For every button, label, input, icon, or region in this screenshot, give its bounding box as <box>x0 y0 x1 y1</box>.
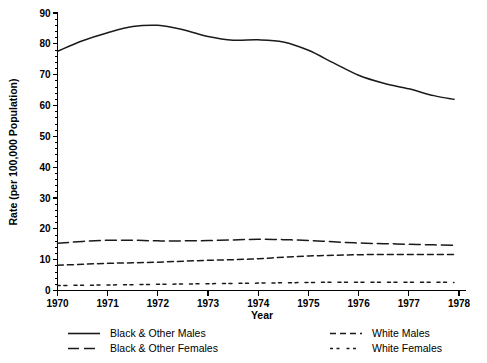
y-tick-label: 10 <box>39 254 51 265</box>
legend-label-2: White Males <box>372 327 430 339</box>
x-tick-label: 1975 <box>297 298 320 309</box>
x-axis-ticks <box>58 291 460 296</box>
x-tick-label: 1978 <box>448 298 471 309</box>
series-line-1 <box>58 239 454 245</box>
series-line-0 <box>58 25 454 99</box>
legend-label-0: Black & Other Males <box>110 327 206 339</box>
data-series-group <box>58 25 454 285</box>
chart-container: 0102030405060708090 Rate (per 100,000 Po… <box>0 0 487 363</box>
y-tick-label: 50 <box>39 131 51 142</box>
x-tick-label: 1976 <box>348 298 371 309</box>
x-axis-title: Year <box>251 309 273 321</box>
series-line-3 <box>58 282 454 285</box>
y-tick-label: 0 <box>45 285 51 296</box>
y-axis-title: Rate (per 100,000 Population) <box>7 78 19 225</box>
y-tick-label: 60 <box>39 100 51 111</box>
x-axis: 197019711972197319741975197619771978 Yea… <box>46 291 470 322</box>
x-tick-label: 1971 <box>97 298 120 309</box>
y-tick-label: 40 <box>39 162 51 173</box>
chart-legend: Black & Other MalesBlack & Other Females… <box>68 327 442 354</box>
y-tick-label: 80 <box>39 38 51 49</box>
y-tick-label: 90 <box>39 8 51 19</box>
legend-label-1: Black & Other Females <box>110 342 218 354</box>
legend-label-3: White Females <box>372 342 442 354</box>
y-tick-label: 30 <box>39 193 51 204</box>
x-axis-tick-labels: 197019711972197319741975197619771978 <box>46 298 470 309</box>
x-tick-label: 1974 <box>247 298 270 309</box>
y-axis: 0102030405060708090 Rate (per 100,000 Po… <box>7 8 58 297</box>
y-tick-label: 20 <box>39 223 51 234</box>
x-tick-label: 1970 <box>46 298 69 309</box>
x-tick-label: 1977 <box>398 298 421 309</box>
y-axis-ticks <box>53 13 58 291</box>
y-tick-label: 70 <box>39 69 51 80</box>
x-tick-label: 1972 <box>147 298 170 309</box>
line-chart: 0102030405060708090 Rate (per 100,000 Po… <box>0 0 487 363</box>
series-line-2 <box>58 254 454 265</box>
y-axis-tick-labels: 0102030405060708090 <box>39 8 51 297</box>
x-tick-label: 1973 <box>197 298 220 309</box>
